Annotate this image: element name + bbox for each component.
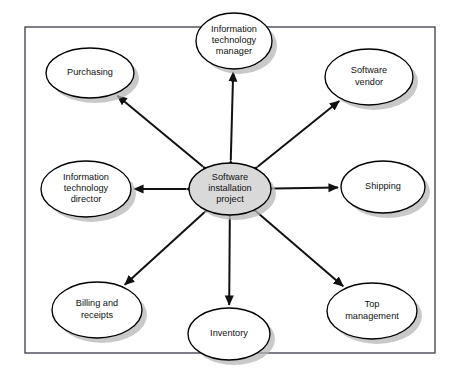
node-billing-and-receipts[interactable]: Billing andreceipts <box>52 282 142 338</box>
node-top-management[interactable]: Topmanagement <box>327 283 417 339</box>
node-label-purchasing: Purchasing <box>67 67 113 77</box>
node-information-technology-director[interactable]: Informationtechnologydirector <box>41 161 131 217</box>
link-shipping <box>274 188 338 189</box>
node-purchasing[interactable]: Purchasing <box>46 48 134 98</box>
link-inventory <box>229 218 230 305</box>
node-information-technology-manager[interactable]: Informationtechnologymanager <box>196 13 272 69</box>
stakeholder-diagram: InformationtechnologymanagerSoftwarevend… <box>0 0 457 381</box>
node-label-shipping: Shipping <box>365 181 401 191</box>
node-label-information-technology-manager: Informationtechnologymanager <box>211 24 257 56</box>
node-software-installation-project[interactable]: Softwareinstallationproject <box>189 163 271 215</box>
node-inventory[interactable]: Inventory <box>188 308 270 360</box>
node-label-inventory: Inventory <box>210 328 248 338</box>
link-billing <box>125 212 204 284</box>
node-software-vendor[interactable]: Softwarevendor <box>325 49 413 105</box>
diagram-canvas: InformationtechnologymanagerSoftwarevend… <box>0 0 457 381</box>
node-layer: InformationtechnologymanagerSoftwarevend… <box>41 13 425 360</box>
link-top-management <box>257 212 343 286</box>
node-label-software-vendor: Softwarevendor <box>351 66 387 87</box>
link-it-manager <box>231 72 233 160</box>
link-software-vendor <box>258 101 339 167</box>
node-shipping[interactable]: Shipping <box>341 161 425 213</box>
node-label-billing-and-receipts: Billing andreceipts <box>76 299 118 320</box>
link-purchasing <box>117 96 202 167</box>
